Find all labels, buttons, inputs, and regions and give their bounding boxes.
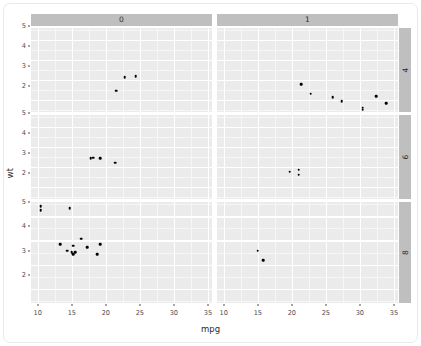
data-point xyxy=(114,161,117,164)
gridline-major-horizontal xyxy=(31,100,212,101)
gridline-major-horizontal xyxy=(31,80,212,81)
gridline-minor-horizontal xyxy=(31,70,212,71)
plot-screenshot: wt 234523452345 0 1 4 6 8 1015202530 xyxy=(0,0,421,346)
y-axis-tick-mark xyxy=(28,26,30,27)
data-point xyxy=(92,157,95,160)
data-point xyxy=(262,259,265,262)
data-point xyxy=(66,250,69,253)
data-point xyxy=(72,244,75,247)
data-point xyxy=(99,157,102,160)
gridline-major-horizontal xyxy=(31,289,212,290)
gridline-minor-horizontal xyxy=(217,204,398,205)
x-axis-tick-label: 20 xyxy=(102,309,110,317)
y-axis-tick-mark xyxy=(28,274,30,275)
x-axis-tick-mark xyxy=(71,304,72,306)
x-axis-tick-label: 30 xyxy=(170,309,178,317)
data-point xyxy=(297,173,300,176)
data-point xyxy=(124,76,127,79)
x-axis-tick-mark xyxy=(37,304,38,306)
data-point xyxy=(68,207,71,210)
y-axis-tick-mark xyxy=(28,133,30,134)
panel-am0-cyl6 xyxy=(31,115,212,199)
data-point xyxy=(289,170,292,173)
data-point xyxy=(385,102,388,105)
gridline-major-horizontal xyxy=(217,265,398,266)
y-axis-tick-label: 4 xyxy=(22,129,26,137)
data-point xyxy=(59,243,62,246)
x-axis-tick-mark xyxy=(291,304,292,306)
y-axis-tick-label: 4 xyxy=(22,42,26,50)
gridline-minor-horizontal xyxy=(217,301,398,302)
y-axis-tick-mark xyxy=(28,153,30,154)
facet-strip-row-4-label: 4 xyxy=(401,68,410,73)
y-axis-tick-mark xyxy=(28,173,30,174)
data-point xyxy=(375,95,378,98)
gridline-major-horizontal xyxy=(217,240,398,241)
y-axis-tick-mark xyxy=(28,202,30,203)
x-axis-tick-label: 35 xyxy=(390,309,398,317)
gridline-minor-horizontal xyxy=(31,197,212,198)
y-axis-tick-label: 3 xyxy=(22,149,26,157)
gridline-minor-horizontal xyxy=(217,30,398,31)
x-axis-tick-mark xyxy=(173,304,174,306)
y-axis-tick-label: 5 xyxy=(22,109,26,117)
gridline-major-horizontal xyxy=(217,147,398,148)
gridline-major-horizontal xyxy=(31,40,212,41)
gridline-minor-horizontal xyxy=(31,137,212,138)
gridline-minor-horizontal xyxy=(217,90,398,91)
facet-grid: 0 1 4 6 8 xyxy=(31,14,406,303)
x-axis-tick-label: 30 xyxy=(356,309,364,317)
gridline-minor-horizontal xyxy=(31,253,212,254)
gridline-minor-horizontal xyxy=(31,157,212,158)
data-point xyxy=(310,92,313,95)
data-point xyxy=(300,83,303,86)
x-axis-title: mpg xyxy=(0,324,421,334)
y-axis: 234523452345 xyxy=(14,14,30,303)
panel-am0-cyl4 xyxy=(31,28,212,112)
x-axis-tick-mark xyxy=(325,304,326,306)
gridline-minor-horizontal xyxy=(217,137,398,138)
gridline-minor-horizontal xyxy=(31,301,212,302)
data-point xyxy=(361,108,364,111)
gridline-minor-horizontal xyxy=(31,277,212,278)
x-axis-tick-mark xyxy=(359,304,360,306)
x-axis-tick-mark xyxy=(207,304,208,306)
facet-strip-col-1: 1 xyxy=(217,14,398,26)
gridline-major-horizontal xyxy=(31,167,212,168)
x-axis-tick-mark xyxy=(257,304,258,306)
panel-am1-cyl4 xyxy=(217,28,398,112)
gridline-major-horizontal xyxy=(31,60,212,61)
y-axis-tick-label: 3 xyxy=(22,62,26,70)
gridline-major-horizontal xyxy=(217,127,398,128)
gridline-major-horizontal xyxy=(217,289,398,290)
gridline-major-horizontal xyxy=(31,216,212,217)
gridline-minor-horizontal xyxy=(217,117,398,118)
x-axis-tick-label: 15 xyxy=(68,309,76,317)
x-axis-tick-label: 35 xyxy=(204,309,212,317)
gridline-minor-horizontal xyxy=(217,228,398,229)
data-point xyxy=(99,243,102,246)
facet-strip-row-4: 4 xyxy=(399,28,411,112)
x-axis-tick-mark xyxy=(105,304,106,306)
x-axis: 101520253035101520253035 xyxy=(31,304,406,318)
y-axis-tick-label: 2 xyxy=(22,271,26,279)
data-point xyxy=(297,168,300,171)
x-axis-tick-mark xyxy=(223,304,224,306)
gridline-minor-horizontal xyxy=(31,90,212,91)
gridline-minor-horizontal xyxy=(31,50,212,51)
gridline-major-horizontal xyxy=(217,216,398,217)
data-point xyxy=(134,75,137,78)
gridline-major-horizontal xyxy=(31,240,212,241)
y-axis-tick-label: 3 xyxy=(22,247,26,255)
gridline-minor-horizontal xyxy=(217,157,398,158)
data-point xyxy=(74,251,77,254)
data-point xyxy=(257,250,260,253)
y-axis-tick-mark xyxy=(28,226,30,227)
x-axis-tick-label: 10 xyxy=(220,309,228,317)
gridline-minor-horizontal xyxy=(217,110,398,111)
facet-strip-row-6-label: 6 xyxy=(401,155,410,160)
gridline-minor-horizontal xyxy=(217,50,398,51)
data-point xyxy=(39,209,42,212)
data-point xyxy=(96,253,99,256)
data-point xyxy=(86,246,89,249)
